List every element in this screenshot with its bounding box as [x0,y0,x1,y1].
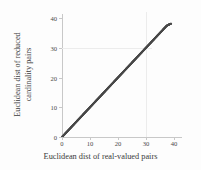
y-tick-10 [59,107,62,108]
y-axis-title-line-2: cardinality pairs [23,32,34,117]
y-axis-title: Euclidean dist of reduced cardinality pa… [0,0,46,148]
x-tick-label-20: 20 [115,140,122,147]
scatter-points [61,23,172,138]
x-axis-spine [62,137,182,138]
x-tick-label-40: 40 [171,140,178,147]
y-tick-label-10: 10 [50,104,57,111]
plot-area [62,18,174,137]
y-tick-label-40: 40 [50,15,57,22]
y-axis-title-text: Euclidean dist of reduced cardinality pa… [13,32,34,117]
x-axis-title: Euclidean dist of real-valued pairs [0,152,201,161]
scatter-series [62,18,174,137]
y-axis-title-line-1: Euclidean dist of reduced [13,32,24,117]
x-tick-label-0: 0 [60,140,63,147]
y-tick-label-20: 20 [50,74,57,81]
y-tick-0 [59,137,62,138]
y-tick-30 [59,48,62,49]
x-tick-label-10: 10 [87,140,94,147]
x-tick-label-30: 30 [143,140,150,147]
y-tick-label-0: 0 [54,134,57,141]
y-tick-label-30: 30 [50,44,57,51]
y-tick-40 [59,18,62,19]
scatter-plot-figure: Euclidean dist of reduced cardinality pa… [0,0,201,170]
y-tick-20 [59,78,62,79]
